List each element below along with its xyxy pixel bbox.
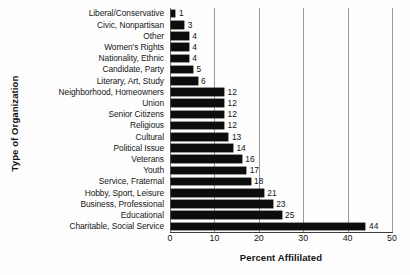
bar [171, 144, 233, 152]
bar-row: 17 [171, 165, 392, 176]
bar-value-label: 4 [192, 32, 197, 40]
bar-value-label: 21 [267, 189, 276, 197]
bar-value-label: 3 [188, 21, 193, 29]
bar [171, 178, 251, 186]
bar [171, 133, 228, 141]
bar-row: 3 [171, 19, 392, 30]
category-label: Nationality, Ethnic [14, 53, 167, 64]
bar-value-label: 44 [369, 222, 378, 230]
bar [171, 223, 365, 231]
x-tick-label: 30 [298, 234, 308, 243]
category-label: Veterans [14, 154, 167, 165]
bar-row: 4 [171, 30, 392, 41]
bar [171, 155, 242, 163]
x-tick-label: 20 [254, 234, 264, 243]
bar [171, 55, 189, 63]
bar-value-label: 13 [232, 133, 241, 141]
bar-row: 12 [171, 98, 392, 109]
x-axis-title: Percent Affililated [170, 252, 392, 263]
bar-value-label: 23 [276, 200, 285, 208]
category-label: Candidate, Party [14, 64, 167, 75]
bar-value-label: 17 [250, 166, 259, 174]
bar-row: 23 [171, 198, 392, 209]
bar-row: 12 [171, 120, 392, 131]
category-label: Religious [14, 120, 167, 131]
category-label: Hobby, Sport, Leisure [14, 187, 167, 198]
category-label: Youth [14, 165, 167, 176]
gridline [392, 8, 393, 232]
category-label: Political Issue [14, 142, 167, 153]
bar-row: 5 [171, 64, 392, 75]
bar-row: 1 [171, 8, 392, 19]
x-tick-label: 50 [387, 234, 397, 243]
bar-value-label: 6 [201, 77, 206, 85]
bar [171, 122, 224, 130]
bar-series: 1 3 4 4 4 5 6 [171, 8, 392, 232]
category-label: Neighborhood, Homeowners [14, 86, 167, 97]
bar-value-label: 1 [179, 9, 184, 17]
bar-value-label: 12 [228, 110, 237, 118]
bar-row: 12 [171, 86, 392, 97]
bar-value-label: 12 [228, 121, 237, 129]
category-label: Women's Rights [14, 42, 167, 53]
bar-row: 18 [171, 176, 392, 187]
bar-value-label: 16 [245, 155, 254, 163]
bar-row: 12 [171, 109, 392, 120]
category-label: Literary, Art, Study [14, 75, 167, 86]
bar-chart: Type of Organization Liberal/Conservativ… [0, 0, 410, 275]
bar [171, 10, 175, 18]
bar [171, 66, 193, 74]
bar [171, 211, 282, 219]
bar-value-label: 12 [228, 99, 237, 107]
bar [171, 88, 224, 96]
bar-value-label: 12 [228, 88, 237, 96]
bar-value-label: 4 [192, 54, 197, 62]
category-label: Union [14, 98, 167, 109]
plot-area: 1 3 4 4 4 5 6 [170, 8, 392, 232]
bar-row: 6 [171, 75, 392, 86]
category-label: Cultural [14, 131, 167, 142]
bar [171, 167, 246, 175]
bar [171, 21, 184, 29]
bar-value-label: 14 [236, 144, 245, 152]
bar-value-label: 4 [192, 43, 197, 51]
bar-value-label: 5 [197, 65, 202, 73]
bar-value-label: 25 [285, 211, 294, 219]
x-tick-label: 40 [343, 234, 353, 243]
x-tick-label: 10 [209, 234, 219, 243]
bar-row: 14 [171, 142, 392, 153]
category-label: Service, Fraternal [14, 176, 167, 187]
bar [171, 32, 189, 40]
bar [171, 111, 224, 119]
bar-row: 21 [171, 187, 392, 198]
bar-row: 16 [171, 154, 392, 165]
category-label: Civic, Nonpartisan [14, 19, 167, 30]
bar-row: 44 [171, 221, 392, 232]
category-axis-labels: Liberal/Conservative Civic, Nonpartisan … [14, 8, 167, 232]
category-label: Senior Citizens [14, 109, 167, 120]
category-label: Other [14, 30, 167, 41]
bar-row: 13 [171, 131, 392, 142]
category-label: Liberal/Conservative [14, 8, 167, 19]
x-tick-label: 0 [168, 234, 173, 243]
x-axis-tick-labels: 0 10 20 30 40 50 [170, 234, 398, 246]
category-label: Educational [14, 210, 167, 221]
bar-value-label: 18 [254, 177, 263, 185]
bar [171, 200, 273, 208]
bar-row: 25 [171, 210, 392, 221]
category-label: Business, Professional [14, 198, 167, 209]
bar-row: 4 [171, 53, 392, 64]
bar [171, 43, 189, 51]
bar-row: 4 [171, 42, 392, 53]
x-axis-line [170, 232, 393, 233]
bar [171, 189, 264, 197]
bar [171, 77, 198, 85]
bar [171, 99, 224, 107]
category-label: Charitable, Social Service [14, 221, 167, 232]
